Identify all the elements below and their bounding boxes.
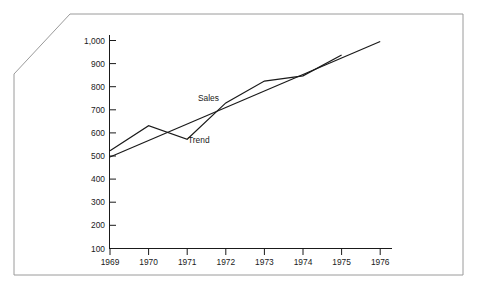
y-axis-ticks bbox=[110, 41, 117, 226]
y-tick-label: 800 bbox=[91, 82, 105, 92]
line-chart-svg: 1,000 900 800 700 600 500 400 300 200 10… bbox=[0, 0, 478, 292]
y-tick-label: 1,000 bbox=[84, 36, 105, 46]
y-tick-label: 200 bbox=[91, 220, 105, 230]
y-tick-label: 300 bbox=[91, 197, 105, 207]
y-tick-label: 700 bbox=[91, 105, 105, 115]
series-line-trend bbox=[110, 42, 380, 157]
series-label-trend: Trend bbox=[188, 135, 210, 145]
y-tick-label: 400 bbox=[91, 174, 105, 184]
x-tick-label: 1974 bbox=[294, 257, 313, 267]
chart-figure: 1,000 900 800 700 600 500 400 300 200 10… bbox=[0, 0, 478, 292]
x-tick-label: 1972 bbox=[216, 257, 235, 267]
x-tick-label: 1970 bbox=[139, 257, 158, 267]
axes bbox=[110, 35, 393, 249]
y-tick-label: 600 bbox=[91, 128, 105, 138]
x-tick-label: 1973 bbox=[255, 257, 274, 267]
x-tick-label: 1971 bbox=[178, 257, 197, 267]
y-tick-label: 100 bbox=[91, 244, 105, 254]
y-tick-label: 500 bbox=[91, 151, 105, 161]
chart-frame-border bbox=[14, 14, 463, 275]
series-label-sales: Sales bbox=[198, 93, 219, 103]
x-tick-label: 1969 bbox=[101, 257, 120, 267]
x-tick-label: 1976 bbox=[371, 257, 390, 267]
y-tick-label: 900 bbox=[91, 59, 105, 69]
x-axis-tick-labels: 1969 1970 1971 1972 1973 1974 1975 1976 bbox=[101, 257, 390, 267]
y-axis-tick-labels: 1,000 900 800 700 600 500 400 300 200 10… bbox=[84, 36, 105, 254]
x-tick-label: 1975 bbox=[332, 257, 351, 267]
x-axis-ticks bbox=[110, 249, 380, 256]
series-line-sales bbox=[110, 55, 342, 151]
